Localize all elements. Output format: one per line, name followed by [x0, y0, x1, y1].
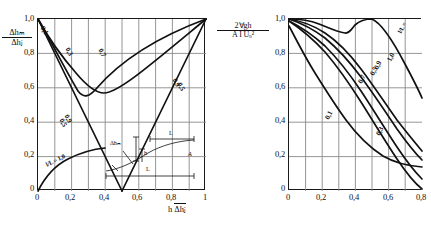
right-xtick-0.4: 0,4	[344, 192, 364, 202]
inset-label-L-upper: L	[169, 129, 173, 136]
left-xtick-0.8: 0,8	[161, 192, 181, 202]
right-ytick-0.2: 0,2	[259, 149, 285, 159]
left-xtick-0.2: 0,2	[60, 192, 80, 202]
left-x-axis-title-denominator: Δhⱼ	[174, 203, 186, 214]
inset-label-h: h	[144, 149, 147, 156]
inset-label-A: A	[188, 150, 192, 157]
right-xtick-0.2: 0,2	[311, 192, 331, 202]
left-y-axis-title-denominator: Δhⱼ	[2, 37, 32, 47]
right-ytick-0.6: 0,6	[259, 81, 285, 91]
left-ytick-0.8: 0,8	[8, 47, 34, 57]
curve-l-0-1b	[122, 19, 206, 191]
left-y-axis-title-numerator: Δhₘ	[2, 28, 32, 37]
right-xtick-0.8: 0,8	[411, 192, 431, 202]
right-ytick-0.8: 0,8	[259, 47, 285, 57]
right-plot-svg	[289, 19, 422, 191]
left-ytick-0.6: 0,6	[8, 81, 34, 91]
left-ytick-1.0: 1,0	[8, 13, 34, 23]
right-chart: 2∀gh A I Uₒ² 1,0 0,8 0,6 0,4 0,2 0	[211, 0, 421, 238]
right-ytick-0.4: 0,4	[259, 115, 285, 125]
left-xtick-0.6: 0,6	[127, 192, 147, 202]
left-x-axis-title: h Δhⱼ	[160, 205, 194, 214]
right-plot-area: l/L = 1,0 0,9 0,5 0,7 0,3 0,1	[288, 18, 421, 190]
left-xtick-0.4: 0,4	[94, 192, 114, 202]
left-x-axis-title-numerator: h	[168, 204, 172, 214]
left-ytick-0.4: 0,4	[8, 115, 34, 125]
right-y-axis-title-numerator: 2∀gh	[217, 22, 269, 30]
left-plot-area: 0,1 0,3 0,7 0,9 0,5 0,9 0,5 l/L = 1,0 Δh…	[37, 18, 205, 190]
left-xtick-0: 0	[27, 192, 47, 202]
inset-label-delta-h-m: Δhₘ	[110, 139, 120, 146]
right-ytick-1.0: 1,0	[259, 13, 285, 23]
right-y-axis-title: 2∀gh A I Uₒ²	[217, 22, 269, 39]
left-grid	[38, 19, 206, 191]
left-plot-svg	[38, 19, 206, 191]
right-y-axis-title-denominator: A I Uₒ²	[217, 30, 269, 39]
left-chart: Δhₘ Δhⱼ 1,0 0,8 0,6 0,4 0,2 0	[0, 0, 211, 238]
left-y-axis-title: Δhₘ Δhⱼ	[2, 28, 32, 46]
right-xtick-0: 0	[278, 192, 298, 202]
inset-label-L-lower: L	[146, 165, 150, 172]
left-ytick-0.2: 0,2	[8, 149, 34, 159]
right-xtick-0.6: 0,6	[378, 192, 398, 202]
